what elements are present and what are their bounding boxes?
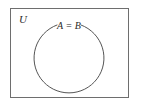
venn-diagram-figure: U A = B — [0, 0, 143, 107]
universal-set-label: U — [19, 13, 28, 25]
venn-diagram-canvas: U A = B — [0, 0, 143, 107]
set-label-a-equals-b: A = B — [56, 20, 81, 31]
